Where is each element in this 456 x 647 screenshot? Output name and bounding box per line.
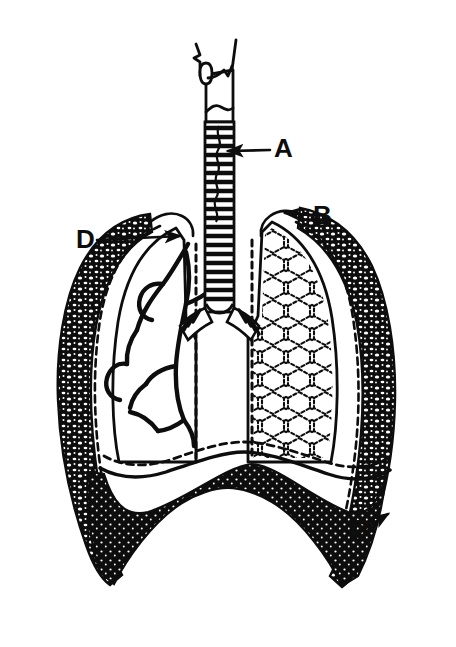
arytenoid-oval [200,63,212,84]
label-c: C [349,514,368,544]
label-d: D [76,224,95,254]
label-b: B [313,200,332,230]
leader-line-a [228,150,270,151]
respiratory-diagram-figure: A B C D [0,0,456,647]
label-a: A [274,133,293,163]
diagram-canvas: A B C D [0,0,456,647]
